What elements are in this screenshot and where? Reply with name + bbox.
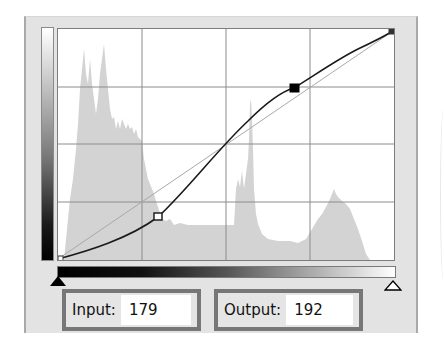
- input-gradient-bar: [57, 266, 396, 278]
- output-field-group: Output: 192: [214, 289, 363, 331]
- edge-decoration: [440, 110, 444, 280]
- output-gradient-bar: [41, 27, 54, 261]
- control-point-3[interactable]: [389, 29, 394, 34]
- input-value-field[interactable]: 179: [121, 295, 191, 325]
- control-point-1[interactable]: [154, 213, 162, 220]
- output-label: Output:: [224, 301, 281, 319]
- control-point-0[interactable]: [58, 256, 63, 260]
- input-label: Input:: [72, 301, 116, 319]
- white-point-slider[interactable]: [384, 276, 402, 287]
- white-triangle-icon: [384, 280, 402, 291]
- curves-graph[interactable]: [57, 28, 395, 261]
- curves-canvas[interactable]: [58, 29, 394, 260]
- output-value-field[interactable]: 192: [286, 295, 353, 325]
- control-point-selected[interactable]: [290, 84, 299, 92]
- black-point-slider[interactable]: [50, 276, 66, 286]
- input-field-group: Input: 179: [62, 289, 201, 331]
